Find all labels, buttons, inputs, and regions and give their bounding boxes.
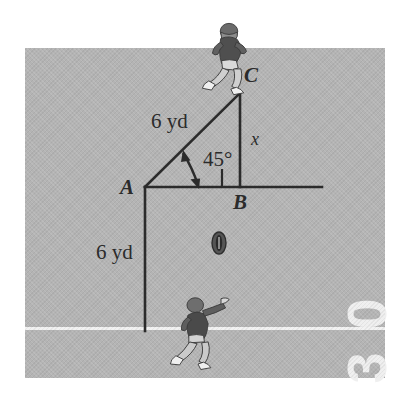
vertex-label-a: A [120,175,134,200]
hypotenuse-length-label: 6 yd [151,109,188,134]
unknown-side-label: x [251,129,259,150]
diagram-overlay [0,0,404,400]
football-player-throwing-icon [170,298,229,370]
vertical-leg-length-label: 6 yd [96,240,133,265]
angle-arrow [181,150,200,189]
football-player-running-icon [202,23,246,94]
vertex-label-b: B [233,190,247,215]
figure-canvas: 0 3 [0,0,404,400]
football-icon [212,232,226,254]
angle-measure-label: 45° [203,147,232,172]
vertex-label-c: C [244,63,258,88]
